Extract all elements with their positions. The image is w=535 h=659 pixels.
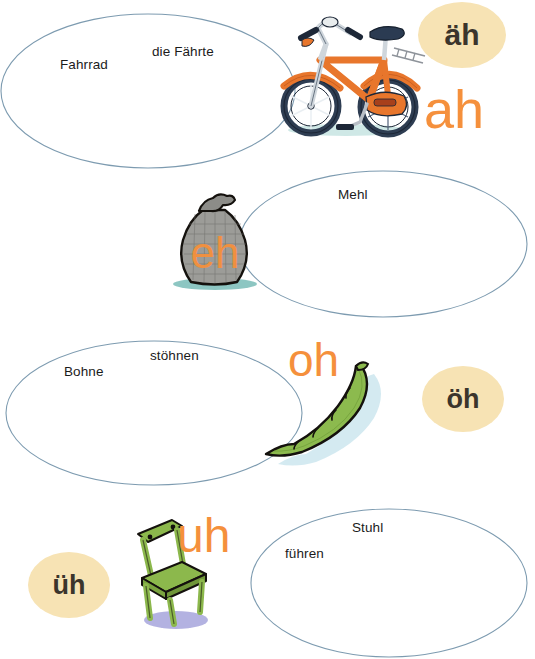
word-die-faehrte: die Fährte — [152, 44, 214, 59]
word-bohne: Bohne — [64, 364, 104, 379]
orange-sound-oh: oh — [288, 337, 339, 383]
badge-label-ueh: üh — [53, 572, 86, 599]
word-field-eh — [238, 170, 528, 318]
bicycle-illustration — [268, 4, 428, 140]
word-stoehnen: stöhnen — [150, 348, 199, 363]
sound-badge-ueh: üh — [28, 552, 110, 618]
ellipse-outline-ah — [0, 13, 296, 169]
word-fuehren: führen — [285, 546, 324, 561]
word-field-uh — [250, 508, 529, 658]
word-field-ah — [0, 13, 296, 169]
badge-label-aeh: äh — [444, 20, 479, 50]
word-fahrrad: Fahrrad — [60, 57, 108, 72]
sound-badge-oeh: öh — [422, 366, 504, 432]
orange-sound-ah: ah — [424, 82, 484, 136]
ellipse-outline-eh — [238, 170, 528, 318]
word-mehl: Mehl — [338, 187, 368, 202]
word-stuhl: Stuhl — [352, 520, 383, 535]
worksheet-page: Fahrrad die Fährte — [0, 0, 535, 659]
orange-sound-uh: uh — [177, 512, 230, 560]
sound-badge-aeh: äh — [418, 2, 506, 68]
ellipse-outline-uh — [250, 508, 529, 658]
badge-label-oeh: öh — [447, 386, 480, 413]
